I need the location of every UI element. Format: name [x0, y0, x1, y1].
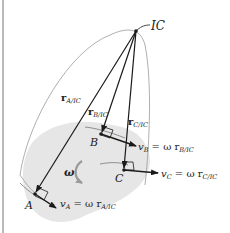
r-a-subscript: A/IC: [65, 97, 80, 105]
v-a-eq-subscript: A/IC: [100, 203, 115, 211]
v-b-equation: vB = ω rB/IC: [138, 141, 194, 154]
r-b-ic-label: rB/IC: [88, 106, 108, 119]
omega-label: ω: [64, 166, 75, 179]
point-a-label: A: [24, 199, 33, 212]
ic-diagram: IC ω rA/IC rB/IC rC/IC A B C vA = ω rA/I…: [0, 0, 230, 233]
point-c-label: C: [115, 172, 124, 185]
v-c-equation: vC = ω rC/IC: [161, 168, 217, 181]
r-a-ic-label: rA/IC: [61, 92, 81, 105]
r-b-subscript: B/IC: [92, 111, 108, 119]
point-b-label: B: [89, 136, 98, 149]
ic-leader: [137, 25, 150, 30]
r-c-subscript: C/IC: [133, 121, 148, 129]
ic-label: IC: [150, 19, 165, 33]
v-c-eq: = ω r: [172, 168, 203, 179]
v-a-eq: = ω r: [70, 198, 101, 209]
r-c-ic-label: rC/IC: [128, 116, 148, 129]
v-b-eq-subscript: B/IC: [178, 146, 194, 154]
v-b-eq: = ω r: [148, 141, 179, 152]
v-c-eq-subscript: C/IC: [203, 173, 218, 181]
